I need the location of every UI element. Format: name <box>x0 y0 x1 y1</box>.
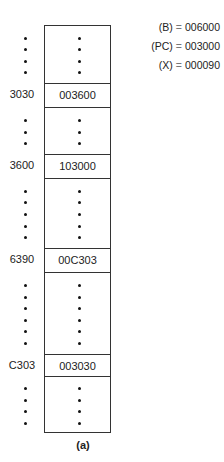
ellipsis-dot <box>24 236 27 239</box>
ellipsis-dot <box>24 225 27 228</box>
ellipsis-dot <box>78 213 81 216</box>
memory-cell-content: 003600 <box>45 84 110 106</box>
ellipsis-dot <box>78 319 81 322</box>
memory-address-label: C303 <box>0 354 44 376</box>
ellipsis-dot <box>24 296 27 299</box>
ellipsis-dot <box>78 119 81 122</box>
register-name: (B) <box>159 21 173 33</box>
ellipsis-dot <box>24 319 27 322</box>
memory-block: 003600 103000 00C303 003030 <box>44 25 111 433</box>
register-value: 000090 <box>185 59 220 71</box>
ellipsis-dot <box>78 307 81 310</box>
ellipsis-dot <box>78 48 81 51</box>
ellipsis-dot <box>78 131 81 134</box>
memory-cell-content: 103000 <box>45 155 110 177</box>
memory-cell-content: 00C303 <box>45 249 110 271</box>
ellipsis-dot <box>78 330 81 333</box>
ellipsis-dot <box>24 213 27 216</box>
register-b: (B)=006000 <box>159 21 220 33</box>
ellipsis-dot <box>78 201 81 204</box>
ellipsis-dot <box>78 284 81 287</box>
ellipsis-dot <box>24 422 27 425</box>
equals-sign: = <box>176 59 182 71</box>
ellipsis-dot <box>78 422 81 425</box>
ellipsis-dot <box>24 142 27 145</box>
ellipsis-dot <box>24 119 27 122</box>
ellipsis-dot <box>24 307 27 310</box>
ellipsis-dot <box>24 131 27 134</box>
ellipsis-dot <box>24 60 27 63</box>
register-pc: (PC)=003000 <box>151 40 220 52</box>
ellipsis-dot <box>24 201 27 204</box>
ellipsis-dot <box>24 410 27 413</box>
memory-address-label: 6390 <box>0 248 44 270</box>
ellipsis-dot <box>78 399 81 402</box>
ellipsis-dot <box>78 190 81 193</box>
register-value: 006000 <box>185 21 220 33</box>
register-x: (X)=000090 <box>159 59 220 71</box>
register-name: (X) <box>159 59 173 71</box>
ellipsis-dot <box>78 387 81 390</box>
ellipsis-dot <box>78 60 81 63</box>
ellipsis-dot <box>24 284 27 287</box>
ellipsis-dot <box>24 399 27 402</box>
equals-sign: = <box>176 21 182 33</box>
ellipsis-dot <box>24 342 27 345</box>
ellipsis-dot <box>24 330 27 333</box>
ellipsis-dot <box>24 48 27 51</box>
ellipsis-dot <box>24 37 27 40</box>
row-divider <box>45 178 110 179</box>
memory-cell-content: 003030 <box>45 355 110 377</box>
ellipsis-dot <box>24 71 27 74</box>
ellipsis-dot <box>78 296 81 299</box>
memory-address-label: 3600 <box>0 154 44 176</box>
register-value: 003000 <box>185 40 220 52</box>
ellipsis-dot <box>78 225 81 228</box>
equals-sign: = <box>176 40 182 52</box>
ellipsis-dot <box>78 410 81 413</box>
row-divider <box>45 376 110 377</box>
ellipsis-dot <box>78 342 81 345</box>
ellipsis-dot <box>78 142 81 145</box>
register-name: (PC) <box>151 40 173 52</box>
row-divider <box>45 272 110 273</box>
ellipsis-dot <box>78 37 81 40</box>
memory-address-label: 3030 <box>0 83 44 105</box>
ellipsis-dot <box>78 236 81 239</box>
row-divider <box>45 107 110 108</box>
ellipsis-dot <box>24 387 27 390</box>
ellipsis-dot <box>78 71 81 74</box>
ellipsis-dot <box>24 190 27 193</box>
figure-caption: (a) <box>70 439 96 451</box>
